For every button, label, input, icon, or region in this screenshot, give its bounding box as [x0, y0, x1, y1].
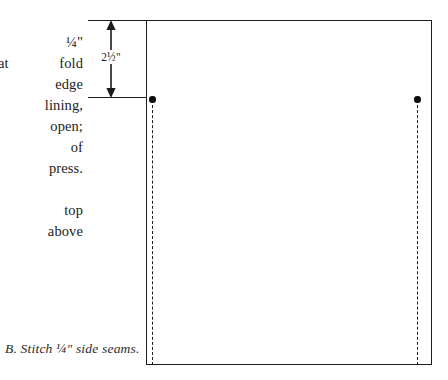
instruction-line: rectangle — [0, 11, 83, 32]
seam-line-left — [152, 100, 153, 365]
instruction-line: ms open; — [0, 116, 83, 137]
instruction-line: rom top — [0, 200, 83, 221]
instruction-line: atching. — [0, 179, 83, 200]
instruction-line: " above — [0, 221, 83, 242]
instruction-text-block: rectangle titch ¼" g at fold aw edge n l… — [0, 11, 83, 242]
instruction-line: n lining, — [0, 95, 83, 116]
seam-line-right — [417, 100, 418, 365]
instruction-line: t; press. — [0, 158, 83, 179]
stitch-start-dot-right — [414, 96, 421, 103]
dimension-label: 2½" — [92, 50, 130, 64]
instruction-line: aw edge — [0, 74, 83, 95]
figure-caption: B. Stitch ¼" side seams. — [5, 341, 140, 357]
figure-page: rectangle titch ¼" g at fold aw edge n l… — [0, 0, 448, 380]
stitch-start-dot-left — [149, 96, 156, 103]
fabric-rectangle — [146, 20, 432, 365]
instruction-line: ction of — [0, 137, 83, 158]
instruction-line: titch ¼" — [0, 32, 83, 53]
instruction-line: g at fold — [0, 53, 83, 74]
